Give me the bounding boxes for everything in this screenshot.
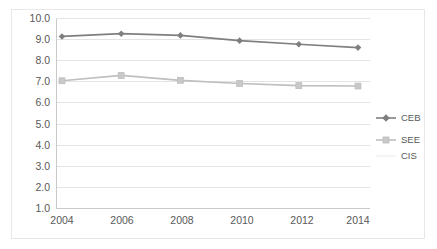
y-tick-label: 3.0: [35, 160, 50, 172]
series-line-ceb: [62, 34, 358, 48]
data-point-square: [118, 73, 124, 79]
legend-item-ceb[interactable]: CEB: [376, 112, 421, 123]
x-tick-label: 2014: [346, 214, 370, 226]
data-point-diamond: [177, 32, 184, 39]
y-tick-label: 8.0: [35, 54, 50, 66]
square-icon: [383, 137, 389, 143]
line-chart: 10.0 9.0 8.0 7.0 6.0 5.0 4.0 3.0 2.0 1.0…: [0, 0, 437, 249]
x-tick-label: 2008: [170, 214, 194, 226]
y-gridlines: [56, 19, 370, 188]
legend-item-see[interactable]: SEE: [376, 134, 420, 145]
legend-label-see: SEE: [401, 134, 420, 145]
series-ceb: [59, 30, 362, 51]
series-line-see: [62, 75, 358, 86]
data-point-square: [59, 78, 65, 84]
diamond-icon: [382, 114, 390, 122]
x-tick-label: 2006: [110, 214, 134, 226]
data-point-square: [178, 77, 184, 83]
x-tick-label: 2012: [290, 214, 314, 226]
x-tick-label: 2010: [230, 214, 254, 226]
chart-legend: CEB SEE CIS: [376, 112, 421, 161]
y-tick-label: 2.0: [35, 181, 50, 193]
data-point-diamond: [118, 30, 125, 37]
data-point-square: [237, 81, 243, 87]
legend-item-cis[interactable]: CIS: [376, 150, 417, 161]
data-point-square: [296, 83, 302, 89]
y-tick-label: 5.0: [35, 118, 50, 130]
y-tick-label: 7.0: [35, 75, 50, 87]
y-tick-label: 1.0: [35, 202, 50, 214]
y-tick-label: 6.0: [35, 96, 50, 108]
y-axis-tick-labels: 10.0 9.0 8.0 7.0 6.0 5.0 4.0 3.0 2.0 1.0: [30, 12, 51, 214]
data-point-square: [355, 83, 361, 89]
series-see: [59, 73, 361, 89]
data-point-diamond: [296, 41, 303, 48]
legend-label-ceb: CEB: [401, 112, 421, 123]
y-tick-label: 9.0: [35, 33, 50, 45]
data-point-diamond: [59, 33, 66, 40]
legend-label-cis: CIS: [401, 150, 417, 161]
y-tick-label: 10.0: [30, 12, 51, 24]
chart-screenshot: 10.0 9.0 8.0 7.0 6.0 5.0 4.0 3.0 2.0 1.0…: [0, 0, 437, 249]
data-point-diamond: [236, 37, 243, 44]
data-point-diamond: [355, 44, 362, 51]
x-axis-tick-labels: 2004 2006 2008 2010 2012 2014: [50, 214, 370, 226]
x-tick-label: 2004: [50, 214, 74, 226]
y-tick-label: 4.0: [35, 139, 50, 151]
